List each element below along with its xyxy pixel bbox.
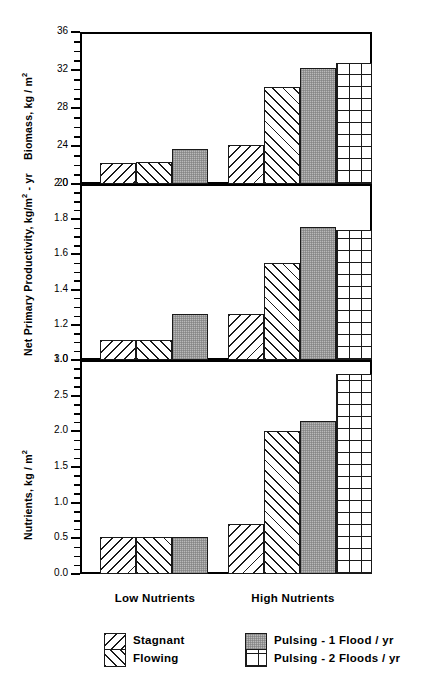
- y-minor-tick: [74, 298, 80, 300]
- y-minor-tick: [74, 165, 80, 167]
- legend-pattern-pulsing-1-flood: [246, 634, 266, 650]
- y-minor-tick: [74, 377, 80, 379]
- y-major-tick: [71, 69, 80, 71]
- y-minor-tick: [74, 136, 80, 138]
- bar: [100, 163, 136, 184]
- bar: [264, 263, 300, 360]
- y-minor-tick: [74, 280, 80, 282]
- y-tick-label: 0.0: [34, 568, 68, 578]
- figure-biomass-npp-nutrients: Biomass, kg / m2 2024283236 Net Primary …: [0, 0, 434, 686]
- y-minor-tick: [74, 413, 80, 415]
- bar: [172, 314, 208, 360]
- bar: [172, 537, 208, 574]
- y-minor-tick: [74, 272, 80, 274]
- y-minor-tick: [74, 192, 80, 194]
- y-minor-tick: [74, 565, 80, 567]
- y-major-tick: [71, 324, 80, 326]
- bar: [100, 340, 136, 360]
- y-minor-tick: [74, 422, 80, 424]
- legend-label-stagnant: Stagnant: [133, 634, 185, 646]
- y-minor-tick: [74, 201, 80, 203]
- bar: [336, 374, 372, 574]
- bar: [336, 230, 372, 360]
- bar: [228, 145, 264, 184]
- y-minor-tick: [74, 351, 80, 353]
- y-major-tick: [71, 502, 80, 504]
- category-label-high-nutrients: High Nutrients: [228, 592, 358, 604]
- y-tick-label: 24: [34, 140, 68, 150]
- y-minor-tick: [74, 368, 80, 370]
- legend-label-flowing: Flowing: [133, 652, 179, 664]
- y-minor-tick: [74, 245, 80, 247]
- y-minor-tick: [74, 98, 80, 100]
- legend-pattern-pulsing-2-floods: [246, 650, 266, 666]
- y-minor-tick: [74, 511, 80, 513]
- y-minor-tick: [74, 117, 80, 119]
- y-minor-tick: [74, 404, 80, 406]
- y-tick-label: 2.5: [34, 390, 68, 400]
- y-minor-tick: [74, 493, 80, 495]
- y-tick-label: 1.0: [34, 497, 68, 507]
- y-minor-tick: [74, 60, 80, 62]
- legend-pattern-stagnant: [105, 634, 125, 650]
- y-major-tick: [71, 145, 80, 147]
- bar: [264, 431, 300, 574]
- y-minor-tick: [74, 174, 80, 176]
- y-minor-tick: [74, 529, 80, 531]
- y-major-tick: [71, 107, 80, 109]
- y-minor-tick: [74, 458, 80, 460]
- bar: [228, 314, 264, 360]
- bar: [100, 537, 136, 574]
- y-tick-label: 2.0: [34, 425, 68, 435]
- y-minor-tick: [74, 556, 80, 558]
- y-minor-tick: [74, 342, 80, 344]
- y-major-tick: [71, 430, 80, 432]
- y-minor-tick: [74, 475, 80, 477]
- y-minor-tick: [74, 520, 80, 522]
- y-minor-tick: [74, 484, 80, 486]
- y-major-tick: [71, 359, 80, 361]
- y-minor-tick: [74, 449, 80, 451]
- y-minor-tick: [74, 41, 80, 43]
- legend-swatch-pulsing: [245, 633, 267, 667]
- y-minor-tick: [74, 89, 80, 91]
- bar: [336, 63, 372, 184]
- y-minor-tick: [74, 307, 80, 309]
- y-minor-tick: [74, 263, 80, 265]
- y-minor-tick: [74, 440, 80, 442]
- y-major-tick: [71, 183, 80, 185]
- y-tick-label: 1.5: [34, 461, 68, 471]
- y-minor-tick: [74, 316, 80, 318]
- y-minor-tick: [74, 333, 80, 335]
- y-minor-tick: [74, 236, 80, 238]
- legend-label-pulsing-2-floods: Pulsing - 2 Floods / yr: [274, 652, 400, 664]
- bar: [300, 421, 336, 574]
- y-major-tick: [71, 289, 80, 291]
- axis-title-nutrients: Nutrients, kg / m2: [20, 450, 34, 540]
- y-major-tick: [71, 218, 80, 220]
- axis-title-biomass: Biomass, kg / m2: [20, 73, 34, 160]
- y-minor-tick: [74, 127, 80, 129]
- y-tick-label: 1.8: [34, 213, 68, 223]
- y-minor-tick: [74, 51, 80, 53]
- y-tick-label: 1.2: [34, 319, 68, 329]
- y-tick-label: 32: [34, 64, 68, 74]
- y-tick-label: 3.0: [34, 354, 68, 364]
- y-minor-tick: [74, 210, 80, 212]
- bar: [264, 87, 300, 184]
- y-tick-label: 28: [34, 102, 68, 112]
- y-major-tick: [71, 253, 80, 255]
- y-major-tick: [71, 466, 80, 468]
- legend-label-pulsing-1-flood: Pulsing - 1 Flood / yr: [274, 634, 394, 646]
- y-minor-tick: [74, 155, 80, 157]
- bar: [136, 340, 172, 360]
- y-minor-tick: [74, 547, 80, 549]
- bar: [300, 227, 336, 360]
- bar: [136, 537, 172, 574]
- y-tick-label: 2.0: [34, 178, 68, 188]
- y-major-tick: [71, 31, 80, 33]
- y-minor-tick: [74, 79, 80, 81]
- bar: [136, 162, 172, 184]
- y-tick-label: 36: [34, 26, 68, 36]
- y-major-tick: [71, 573, 80, 575]
